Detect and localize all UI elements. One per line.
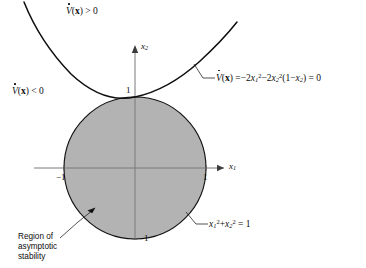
- vdot-equation-factor-open: (1−: [282, 73, 295, 83]
- phase-plane-plot: [0, 0, 366, 268]
- stability-region-caption-line3: stability: [18, 252, 57, 262]
- vdot-positive-region-label: V(x) > 0: [66, 6, 98, 17]
- lyapunov-stability-figure: V(x) > 0 V(x) < 0 V(x) =−2x12−2x22(1−x2)…: [0, 0, 366, 268]
- vdot-equation-result: = 0: [309, 73, 321, 83]
- vdot-negative-region-label: V(x) < 0: [12, 86, 44, 97]
- circle-equation-label: x12+x22 = 1: [209, 218, 251, 229]
- x2-axis-label: x2: [141, 41, 148, 52]
- x2-tick-label-positive-one: 1: [126, 85, 131, 95]
- x2-axis-arrowhead: [132, 45, 138, 53]
- vdot-equation-term1-coeff: −2: [241, 73, 251, 83]
- stability-region-caption: Region of asymptotic stability: [18, 232, 57, 262]
- x1-axis-label: x1: [229, 161, 236, 172]
- x2-tick-label-negative-one: −1: [139, 233, 149, 243]
- x2-axis-label-sub: 2: [145, 45, 148, 51]
- x1-tick-label-positive-one: 1: [203, 172, 208, 182]
- x1-axis-arrowhead: [217, 165, 224, 171]
- stability-region-leader-line: [60, 210, 93, 238]
- vdot-negative-relation: < 0: [31, 86, 43, 96]
- vdot-positive-v-symbol: V: [66, 6, 72, 17]
- vdot-equation-v-symbol: V: [216, 73, 222, 84]
- stability-region-caption-line2: asymptotic: [18, 242, 57, 252]
- vdot-positive-relation: > 0: [85, 6, 97, 16]
- vdot-zero-equation-label: V(x) =−2x12−2x22(1−x2) = 0: [216, 72, 321, 83]
- vdot-negative-v-symbol: V: [12, 86, 18, 97]
- vdot-equation-factor-close: ): [303, 73, 306, 83]
- circle-equation-equals: = 1: [238, 219, 250, 229]
- x1-tick-label-negative-one: −1: [56, 172, 66, 182]
- vdot-equation-leader-line: [194, 64, 215, 78]
- circle-equation-pow2: 2: [233, 218, 236, 225]
- stability-region-caption-line1: Region of: [18, 232, 57, 242]
- x1-axis-label-sub: 1: [233, 165, 236, 171]
- vdot-zero-parabola-curve: [24, 2, 237, 98]
- vdot-equation-term2-coeff: −2: [261, 73, 271, 83]
